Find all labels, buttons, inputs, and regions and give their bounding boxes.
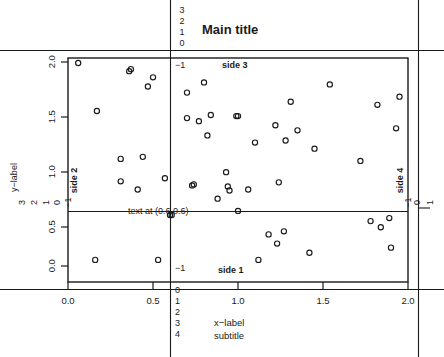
data-point [156, 257, 161, 262]
data-point [288, 99, 293, 104]
x-tick-label-0.0: 0.0 [56, 296, 80, 306]
data-point [387, 215, 392, 220]
data-point [140, 154, 145, 159]
data-point [273, 123, 278, 128]
data-point [145, 84, 150, 89]
data-point [118, 179, 123, 184]
data-point [368, 219, 373, 224]
data-point [375, 102, 380, 107]
x-tick-label-1.5: 1.5 [311, 296, 335, 306]
data-point [118, 156, 123, 161]
r-plot-figure: 3 2 1 0 Main title 2.0 1.5 1.0 0.5 0.0 y… [0, 0, 444, 357]
side4-label: side 4 [396, 163, 405, 199]
data-point [196, 119, 201, 124]
x-tick-label-0.5: 0.5 [141, 296, 165, 306]
data-point [224, 170, 229, 175]
data-point [307, 250, 312, 255]
data-point [94, 108, 99, 113]
data-point [201, 80, 206, 85]
plot-text-annotation: text at (0.6,0.6) [128, 207, 189, 216]
data-point [378, 225, 383, 230]
data-point [276, 180, 281, 185]
side3-label: side 3 [222, 61, 248, 70]
data-point [394, 126, 399, 131]
bottom-margin-line-3: 3 [175, 319, 189, 328]
data-point [150, 75, 155, 80]
data-point [184, 116, 189, 121]
data-point [295, 128, 300, 133]
right-margin-line-1: 1 [426, 196, 435, 209]
right-margin-line-0: 0 [413, 196, 422, 209]
bottom-margin-line-1: 1 [175, 297, 189, 306]
data-point [327, 82, 332, 87]
data-point [76, 60, 81, 65]
x-tick-label-2.0: 2.0 [396, 296, 420, 306]
side3-inner-margin-label: −1 [175, 61, 191, 70]
data-point [283, 138, 288, 143]
data-point [358, 158, 363, 163]
data-point [162, 176, 167, 181]
data-point [235, 208, 240, 213]
data-point [397, 94, 402, 99]
data-point [215, 196, 220, 201]
figure-subtitle: subtitle [214, 330, 244, 341]
data-point [205, 133, 210, 138]
data-point [312, 146, 317, 151]
data-point [275, 241, 280, 246]
side1-label: side 1 [218, 266, 244, 275]
bottom-margin-line-4: 4 [175, 330, 189, 339]
data-point [388, 245, 393, 250]
x-axis-label: x−label [214, 317, 244, 328]
bottom-margin-line-0: 0 [175, 286, 189, 295]
data-point [208, 112, 213, 117]
data-point [266, 232, 271, 237]
data-point [246, 187, 251, 192]
bottom-margin-line-2: 2 [175, 308, 189, 317]
data-point [93, 257, 98, 262]
side2-label: side 2 [70, 163, 79, 199]
data-point [184, 90, 189, 95]
side1-inner-margin-label: −1 [175, 264, 191, 273]
x-tick-label-1.0: 1.0 [226, 296, 250, 306]
data-point [135, 187, 140, 192]
data-point [256, 257, 261, 262]
data-point [191, 182, 196, 187]
data-point [281, 229, 286, 234]
data-point [252, 140, 257, 145]
